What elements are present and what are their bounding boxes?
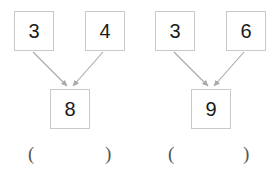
arrow-addend-left-to-sum-1 bbox=[33, 52, 67, 86]
arrow-addend-right-to-sum-2 bbox=[214, 52, 244, 86]
answer-close-paren-2: ) bbox=[243, 144, 249, 163]
addend-left-box-2: 3 bbox=[155, 11, 195, 51]
answer-close-paren-1: ) bbox=[105, 144, 111, 163]
arrow-addend-right-to-sum-1 bbox=[73, 52, 103, 86]
sum-box-2: 9 bbox=[191, 89, 231, 129]
sum-box-1: 8 bbox=[50, 89, 90, 129]
addend-right-box-2: 6 bbox=[226, 11, 266, 51]
answer-open-paren-1: ( bbox=[28, 144, 34, 163]
arrow-addend-left-to-sum-2 bbox=[174, 52, 208, 86]
answer-open-paren-2: ( bbox=[168, 144, 174, 163]
addend-right-box-1: 4 bbox=[85, 11, 125, 51]
addend-left-box-1: 3 bbox=[14, 11, 54, 51]
worksheet-canvas: 3 4 8 ( ) 3 6 9 ( ) bbox=[0, 0, 271, 174]
